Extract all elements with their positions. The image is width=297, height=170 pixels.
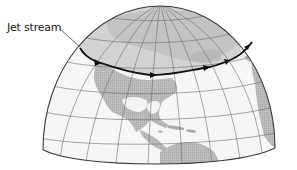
jet-stream-globe-diagram: Jet stream	[0, 0, 297, 170]
jet-stream-label: Jet stream	[7, 21, 61, 34]
label-leader-line	[60, 29, 80, 47]
